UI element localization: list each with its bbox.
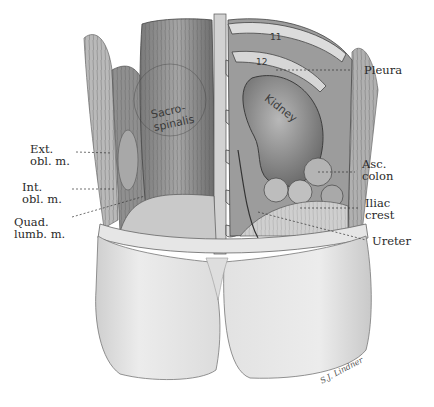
label-ext-obl: Ext. obl. m. [30, 143, 70, 167]
label-int-obl: Int. obl. m. [22, 181, 62, 205]
label-pleura: Pleura [364, 64, 402, 76]
label-rib-11: 11 [270, 32, 281, 42]
renal-cavity [228, 19, 352, 238]
label-quad-lumb: Quad. lumb. m. [14, 216, 65, 240]
label-iliac-crest: Iliac crest [365, 197, 394, 221]
anatomical-figure: Ext. obl. m. Int. obl. m. Quad. lumb. m.… [0, 0, 434, 407]
buttocks [96, 236, 372, 380]
label-ureter: Ureter [372, 235, 411, 247]
label-asc-colon: Asc. colon [362, 158, 393, 182]
label-rib-12: 12 [256, 57, 267, 67]
